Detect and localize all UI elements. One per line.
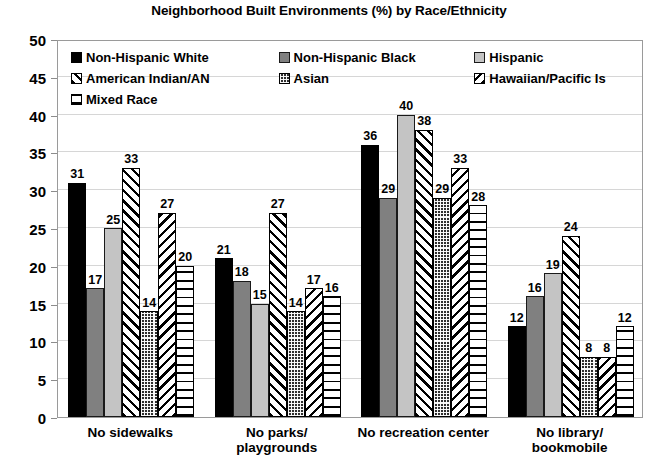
y-axis-tick-label: 45 — [0, 71, 46, 86]
gridline — [58, 114, 642, 115]
legend-item: Non-Hispanic Black — [279, 51, 475, 64]
legend-row: Mixed Race — [71, 89, 631, 110]
bar-value-label: 21 — [208, 244, 240, 257]
bar — [469, 205, 487, 417]
legend-row: Non-Hispanic WhiteNon-Hispanic BlackHisp… — [71, 47, 631, 68]
legend-label: Asian — [294, 72, 329, 85]
legend-item: American Indian/AN — [71, 72, 279, 85]
chart-legend: Non-Hispanic WhiteNon-Hispanic BlackHisp… — [71, 47, 631, 110]
legend-label: Non-Hispanic Black — [294, 51, 416, 64]
y-axis-tick-label: 10 — [0, 335, 46, 350]
bar — [140, 311, 158, 417]
bar — [122, 168, 140, 417]
bar — [305, 288, 323, 417]
y-axis-tick-label: 50 — [0, 33, 46, 48]
legend-swatch-icon — [279, 52, 290, 63]
bar — [397, 115, 415, 417]
legend-label: Hawaiian/Pacific Is — [489, 72, 605, 85]
bar — [176, 266, 194, 417]
bar — [86, 288, 104, 417]
bar — [433, 198, 451, 417]
bar — [451, 168, 469, 417]
bar-value-label: 33 — [444, 153, 476, 166]
bar-value-label: 31 — [61, 168, 93, 181]
x-axis-category-label: No recreation center — [338, 425, 508, 440]
gridline — [58, 189, 642, 190]
legend-swatch-icon — [71, 94, 82, 105]
legend-row: American Indian/ANAsianHawaiian/Pacific … — [71, 68, 631, 89]
legend-swatch-icon — [474, 73, 485, 84]
bar-chart: Neighborhood Built Environments (%) by R… — [0, 0, 658, 470]
chart-title: Neighborhood Built Environments (%) by R… — [0, 3, 658, 18]
bar — [526, 296, 544, 417]
bar-value-label: 24 — [555, 221, 587, 234]
y-axis-tick-label: 15 — [0, 298, 46, 313]
bar-value-label: 18 — [226, 266, 258, 279]
bar — [616, 326, 634, 417]
legend-item: Hispanic — [474, 51, 631, 64]
y-axis-tick-label: 20 — [0, 260, 46, 275]
legend-label: Hispanic — [489, 51, 543, 64]
x-axis-category-label: No sidewalks — [45, 425, 215, 440]
bar-value-label: 12 — [609, 312, 641, 325]
bar — [379, 198, 397, 417]
legend-swatch-icon — [279, 73, 290, 84]
y-axis-tick-label: 30 — [0, 184, 46, 199]
bar-value-label: 28 — [462, 191, 494, 204]
legend-label: Non-Hispanic White — [86, 51, 209, 64]
legend-swatch-icon — [474, 52, 485, 63]
bar — [323, 296, 341, 417]
bar-value-label: 38 — [408, 115, 440, 128]
legend-label: Mixed Race — [86, 93, 158, 106]
bar-value-label: 20 — [169, 251, 201, 264]
bar — [508, 326, 526, 417]
bar — [251, 304, 269, 417]
bar — [287, 311, 305, 417]
bar — [68, 183, 86, 417]
legend-item: Hawaiian/Pacific Is — [474, 72, 631, 85]
x-axis-category-label: No library/ bookmobile — [485, 425, 655, 455]
bar — [158, 213, 176, 417]
legend-item: Mixed Race — [71, 93, 283, 106]
bar — [269, 213, 287, 417]
y-axis-tick-label: 25 — [0, 222, 46, 237]
bar-value-label: 27 — [262, 198, 294, 211]
y-axis-tick-label: 35 — [0, 146, 46, 161]
y-axis-tick-label: 40 — [0, 109, 46, 124]
bar-value-label: 33 — [115, 153, 147, 166]
bar — [598, 357, 616, 417]
bar — [104, 228, 122, 417]
legend-item: Asian — [279, 72, 475, 85]
legend-swatch-icon — [71, 73, 82, 84]
legend-label: American Indian/AN — [86, 72, 210, 85]
y-axis-tick-label: 5 — [0, 373, 46, 388]
bar-value-label: 36 — [354, 130, 386, 143]
x-axis-category-label: No parks/ playgrounds — [192, 425, 362, 455]
bar — [415, 130, 433, 417]
plot-area: 3117253314272021181527141716362940382933… — [57, 40, 643, 418]
bar — [544, 273, 562, 417]
bar — [562, 236, 580, 417]
bar — [215, 258, 233, 417]
y-axis-tick-label: 0 — [0, 411, 46, 426]
bar-value-label: 27 — [151, 198, 183, 211]
legend-swatch-icon — [71, 52, 82, 63]
bar — [580, 357, 598, 417]
legend-item: Non-Hispanic White — [71, 51, 279, 64]
y-axis-tick-mark — [51, 418, 57, 419]
bar-value-label: 16 — [316, 282, 348, 295]
